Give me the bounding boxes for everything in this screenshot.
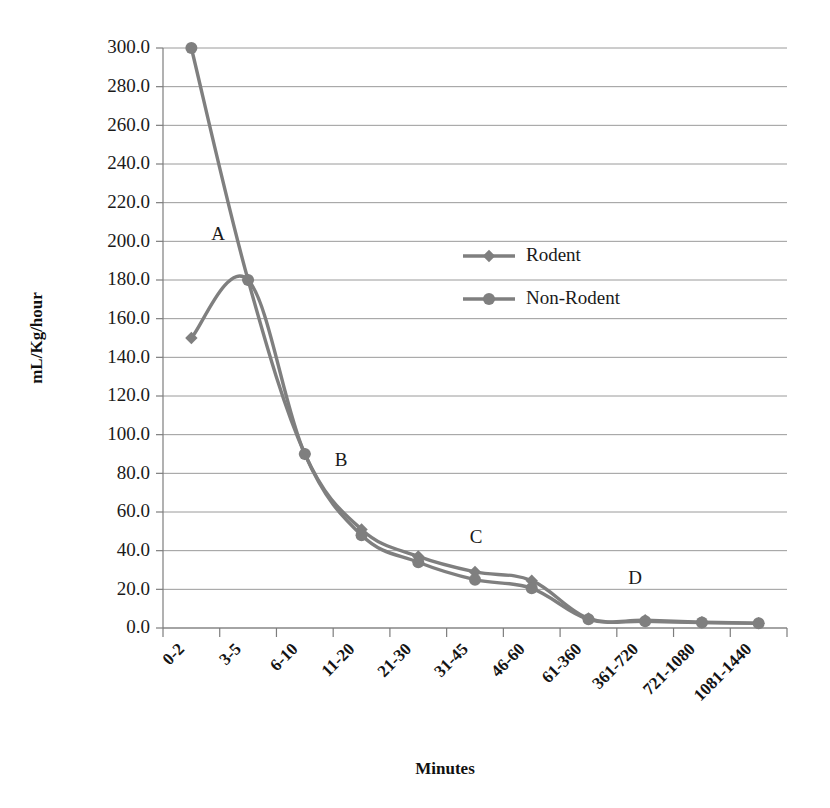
annotation-label-d: D (628, 567, 642, 588)
annotation-label-c: C (470, 526, 483, 547)
x-tick-label: 61-360 (538, 639, 585, 686)
legend-label: Rodent (526, 244, 582, 265)
data-point-marker (412, 556, 424, 568)
y-tick-marks-group (156, 48, 163, 628)
y-tick-label: 240.0 (107, 152, 150, 173)
y-tick-label: 120.0 (107, 384, 150, 405)
data-point-marker (299, 448, 311, 460)
x-tick-label: 3-5 (215, 639, 244, 668)
y-tick-label: 100.0 (107, 423, 150, 444)
data-point-marker (753, 617, 765, 629)
y-tick-label: 140.0 (107, 346, 150, 367)
data-point-marker (185, 42, 197, 54)
y-tick-label: 180.0 (107, 268, 150, 289)
y-tick-label: 220.0 (107, 191, 150, 212)
data-point-marker (356, 529, 368, 541)
x-axis-title: Minutes (415, 759, 475, 778)
x-tick-label: 0-2 (159, 639, 188, 668)
x-tick-label: 11-20 (318, 639, 359, 680)
x-tick-label: 46-60 (487, 639, 528, 680)
y-tick-label: 160.0 (107, 307, 150, 328)
line-chart: 0.020.040.060.080.0100.0120.0140.0160.01… (0, 0, 830, 808)
y-tick-label: 40.0 (117, 539, 150, 560)
y-tick-label: 200.0 (107, 230, 150, 251)
annotation-label-b: B (335, 449, 348, 470)
data-point-marker (696, 617, 708, 629)
annotation-label-a: A (211, 223, 225, 244)
y-tick-label: 80.0 (117, 462, 150, 483)
y-axis-title: mL/Kg/hour (27, 292, 46, 384)
data-point-marker (639, 615, 651, 627)
legend-label: Non-Rodent (526, 287, 621, 308)
data-point-marker (582, 613, 594, 625)
y-tick-label: 60.0 (117, 500, 150, 521)
y-tick-label: 20.0 (117, 578, 150, 599)
data-point-marker (526, 582, 538, 594)
x-tick-label: 721-1080 (639, 639, 699, 699)
y-tick-label: 260.0 (107, 114, 150, 135)
data-point-marker (242, 274, 254, 286)
y-tick-label: 280.0 (107, 75, 150, 96)
chart-page: 0.020.040.060.080.0100.0120.0140.0160.01… (0, 0, 830, 808)
y-tick-label: 300.0 (107, 36, 150, 57)
y-tick-labels-group: 0.020.040.060.080.0100.0120.0140.0160.01… (107, 36, 150, 637)
x-tick-label: 1081-1440 (690, 639, 756, 705)
x-tick-label: 31-45 (430, 639, 471, 680)
x-tick-label: 361-720 (589, 639, 643, 693)
x-tick-marks-group (163, 628, 787, 637)
x-tick-labels-group: 0-23-56-1011-2021-3031-4546-6061-360361-… (159, 639, 756, 705)
x-tick-label: 21-30 (374, 639, 415, 680)
legend-marker (483, 293, 495, 305)
y-tick-label: 0.0 (126, 616, 150, 637)
data-point-marker (469, 574, 481, 586)
x-tick-label: 6-10 (266, 639, 301, 674)
